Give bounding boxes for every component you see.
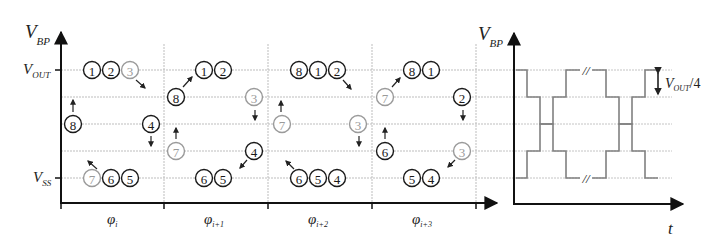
phase-label-3: φi+3	[412, 211, 432, 229]
break-mark-bottom: //	[581, 171, 591, 186]
node-number: 8	[296, 64, 303, 79]
node-8: 8	[404, 62, 421, 79]
node-number: 3	[251, 91, 258, 106]
diagram-canvas: VBP VOUT VSS φi φi+1 φi+2 φi+3 123847651…	[0, 0, 725, 251]
node-2: 2	[103, 62, 120, 79]
node-5: 5	[215, 170, 232, 187]
left-plot: VBP VOUT VSS φi φi+1 φi+2 φi+3 123847651…	[23, 21, 500, 229]
node-number: 4	[148, 118, 155, 133]
node-number: 4	[251, 145, 258, 160]
node-1: 1	[423, 62, 440, 79]
transition-arrow	[448, 160, 455, 167]
node-7: 7	[274, 116, 291, 133]
node-3: 3	[454, 143, 471, 160]
time-axis-label: t	[668, 219, 674, 238]
node-number: 6	[382, 145, 389, 160]
node-7: 7	[84, 170, 101, 187]
node-number: 6	[108, 172, 115, 187]
v-out-label: VOUT	[23, 61, 51, 80]
node-number: 4	[428, 172, 435, 187]
node-5: 5	[122, 170, 139, 187]
phase-label-0: φi	[107, 211, 118, 229]
node-4: 4	[423, 170, 440, 187]
node-6: 6	[196, 170, 213, 187]
node-3: 3	[350, 116, 367, 133]
node-7: 7	[168, 143, 185, 160]
transition-arrow	[240, 160, 247, 168]
node-number: 1	[428, 64, 435, 79]
axis-ticks	[55, 70, 476, 209]
node-number: 5	[220, 172, 227, 187]
right-plot: VBP t // // VOUT/4	[478, 23, 700, 238]
node-number: 7	[382, 91, 389, 106]
transition-arrow	[88, 161, 97, 169]
node-number: 2	[334, 64, 341, 79]
v-ss-label: VSS	[33, 169, 52, 188]
node-2: 2	[329, 62, 346, 79]
node-number: 6	[296, 172, 303, 187]
node-6: 6	[377, 143, 394, 160]
node-number: 6	[201, 172, 208, 187]
node-number: 5	[409, 172, 416, 187]
node-number: 8	[70, 118, 77, 133]
node-number: 1	[89, 64, 96, 79]
node-4: 4	[246, 143, 263, 160]
node-5: 5	[310, 170, 327, 187]
node-number: 7	[279, 118, 286, 133]
node-7: 7	[377, 89, 394, 106]
node-number: 2	[108, 64, 115, 79]
node-3: 3	[122, 62, 139, 79]
node-number: 8	[409, 64, 416, 79]
node-number: 3	[355, 118, 362, 133]
node-6: 6	[291, 170, 308, 187]
node-1: 1	[84, 62, 101, 79]
node-4: 4	[143, 116, 160, 133]
node-number: 5	[127, 172, 134, 187]
transition-arrow	[343, 80, 351, 89]
node-number: 2	[459, 91, 466, 106]
phase-label-2: φi+2	[308, 211, 328, 229]
node-number: 1	[201, 64, 208, 79]
right-y-axis-label: VBP	[478, 23, 503, 49]
node-2: 2	[215, 62, 232, 79]
node-1: 1	[310, 62, 327, 79]
node-3: 3	[246, 89, 263, 106]
node-number: 2	[220, 64, 227, 79]
node-number: 5	[315, 172, 322, 187]
node-4: 4	[329, 170, 346, 187]
node-number: 7	[89, 172, 96, 187]
node-number: 3	[459, 145, 466, 160]
node-1: 1	[196, 62, 213, 79]
phase-label-1: φi+1	[204, 211, 224, 229]
transition-arrow	[136, 80, 145, 88]
node-5: 5	[404, 170, 421, 187]
node-8: 8	[168, 89, 185, 106]
node-2: 2	[454, 89, 471, 106]
node-8: 8	[65, 116, 82, 133]
node-number: 7	[173, 145, 180, 160]
node-6: 6	[103, 170, 120, 187]
y-axis-label: VBP	[25, 21, 50, 47]
transition-arrow	[286, 161, 294, 169]
node-number: 4	[334, 172, 341, 187]
node-number: 3	[127, 64, 134, 79]
transition-arrow	[183, 77, 192, 87]
step-size-label: VOUT/4	[665, 76, 700, 93]
break-mark-top: //	[581, 63, 591, 78]
node-number: 1	[315, 64, 322, 79]
node-number: 8	[173, 91, 180, 106]
node-8: 8	[291, 62, 308, 79]
transition-arrow	[392, 78, 400, 87]
right-level-gridlines	[500, 70, 672, 178]
